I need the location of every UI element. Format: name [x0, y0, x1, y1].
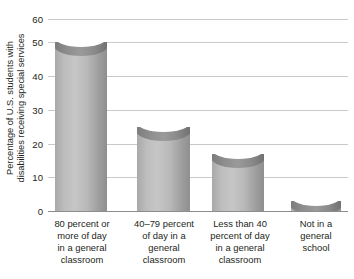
x-category-4-line-1: Not in a: [270, 218, 354, 230]
bar-2: [137, 127, 190, 212]
bar-chart: Percentage of U.S. students with disabil…: [0, 0, 354, 279]
y-tick-label-0: 0: [38, 206, 43, 217]
bar-4: [291, 201, 341, 211]
y-tick-label-10: 10: [32, 172, 43, 183]
bars-layer: [48, 0, 348, 215]
x-category-4-line-2: general: [270, 230, 354, 242]
y-axis-title: Percentage of U.S. students with disabil…: [0, 0, 32, 216]
y-tick-label-30: 30: [32, 105, 43, 116]
x-category-4-line-3: school: [270, 242, 354, 254]
y-tick-label-20: 20: [32, 139, 43, 150]
bar-3: [212, 154, 264, 211]
y-tick-label-50: 50: [32, 37, 43, 48]
x-category-label-4: Not in ageneralschool: [270, 218, 354, 254]
x-axis-categories: 80 percent ormore of dayin a generalclas…: [48, 218, 348, 278]
y-axis-title-line-2: disabilities receiving special services: [16, 34, 28, 183]
y-axis-title-line-1: Percentage of U.S. students with: [5, 41, 17, 175]
x-category-3-line-4: classroom: [192, 254, 288, 266]
plot-area: 60 50 40 30 20 10 0: [48, 0, 348, 215]
bar-1: [55, 42, 107, 211]
y-tick-label-40: 40: [32, 71, 43, 82]
y-tick-label-60: 60: [32, 14, 43, 25]
